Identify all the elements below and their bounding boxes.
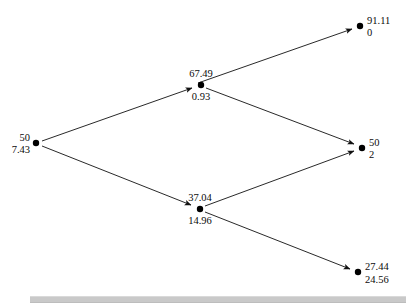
node-root-payoff-label: 7.43 [12, 144, 30, 156]
lattice-drawing [0, 0, 406, 306]
edge-root-to-down [42, 146, 191, 205]
bottom-separator-rule [30, 296, 406, 303]
edge-up-to-middle [206, 88, 354, 144]
node-up-up[interactable] [357, 23, 363, 29]
edge-group [42, 29, 354, 269]
node-up-up-payoff-label: 0 [367, 27, 372, 39]
node-down[interactable] [197, 206, 203, 212]
node-up-up-value-label: 91.11 [367, 15, 390, 27]
node-root[interactable] [33, 140, 39, 146]
node-root-value-label: 50 [20, 132, 31, 144]
node-middle[interactable] [359, 145, 365, 151]
edge-root-to-up [42, 88, 192, 141]
node-down-down-payoff-label: 24.56 [365, 274, 389, 286]
node-down-payoff-label: 14.96 [188, 215, 212, 227]
node-down-down-value-label: 27.44 [365, 261, 389, 273]
node-middle-value-label: 50 [369, 137, 380, 149]
node-up-value-label: 67.49 [189, 68, 213, 80]
node-up-payoff-label: 0.93 [192, 91, 210, 103]
lattice-figure: 50 7.43 67.49 0.93 37.04 14.96 91.11 0 5… [0, 0, 406, 306]
edge-down-to-downdown [205, 212, 350, 269]
node-down-down[interactable] [355, 269, 361, 275]
edge-up-to-upup [198, 29, 352, 83]
edge-down-to-middle [205, 151, 354, 206]
node-group [33, 23, 365, 275]
node-down-value-label: 37.04 [188, 192, 212, 204]
node-middle-payoff-label: 2 [369, 149, 374, 161]
node-up[interactable] [198, 82, 204, 88]
